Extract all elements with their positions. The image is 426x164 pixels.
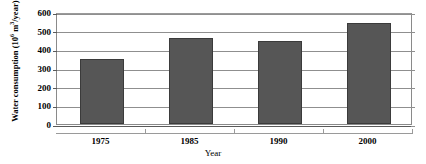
y-axis-tick-label: 0 <box>20 121 51 130</box>
gridline <box>57 126 411 127</box>
y-axis-tick-label: 300 <box>20 65 51 74</box>
bar-slot <box>146 14 235 124</box>
bar-chart: Water consumption (106 m3/year) 01002003… <box>0 0 426 164</box>
y-axis-title-exponent: 6 <box>9 34 15 37</box>
x-axis-tick-label: 2000 <box>338 136 398 147</box>
x-axis-tick-label: 1990 <box>249 136 309 147</box>
y-axis-title-suffix: /year) <box>10 1 20 22</box>
bar <box>347 23 391 124</box>
y-axis-tick-label: 200 <box>20 83 51 92</box>
x-axis-tick-labels: 1975198519902000 <box>56 136 412 150</box>
y-axis-tick-label: 600 <box>20 9 51 18</box>
plot-area <box>56 13 412 125</box>
x-axis-tick-label: 1975 <box>71 136 131 147</box>
y-axis-tick-label: 500 <box>20 27 51 36</box>
x-axis-tick <box>234 129 235 134</box>
bar-slot <box>57 14 146 124</box>
y-axis-title-unit-exponent: 3 <box>9 22 15 25</box>
bar <box>80 59 124 124</box>
x-axis-title: Year <box>0 149 426 158</box>
bar-slot <box>235 14 324 124</box>
bar-series <box>57 14 411 124</box>
y-axis-tick-label: 400 <box>20 46 51 55</box>
bar <box>258 41 302 124</box>
y-axis-tick-labels: 0100200300400500600 <box>20 8 51 132</box>
bar-slot <box>324 14 413 124</box>
x-axis-tick <box>323 129 324 134</box>
y-axis-tick-right <box>411 126 415 127</box>
x-axis-tick-label: 1985 <box>160 136 220 147</box>
y-axis-title: Water consumption (106 m3/year) <box>9 0 19 123</box>
x-axis-tick <box>145 129 146 134</box>
y-axis-title-middle: m <box>10 25 20 34</box>
y-axis-title-prefix: Water consumption (10 <box>10 37 20 122</box>
y-axis-tick-label: 100 <box>20 102 51 111</box>
y-axis-tick <box>53 126 57 127</box>
bar <box>169 38 213 124</box>
x-axis-tick <box>412 129 413 134</box>
